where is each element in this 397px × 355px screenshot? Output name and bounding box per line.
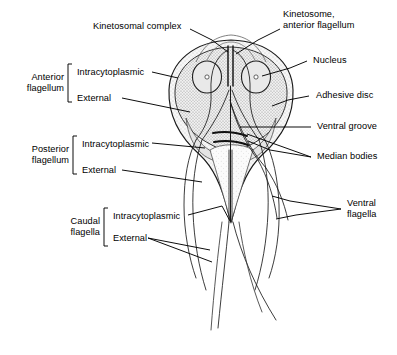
brace-posterior-flagellum: [73, 136, 77, 174]
tail-sheath-left: [211, 222, 222, 330]
brace-caudal-flagella: [104, 208, 108, 246]
giardia-diagram-figure: Kinetosomal complex Kinetosome, anterior…: [0, 0, 397, 355]
tail-sheath-right: [239, 222, 262, 312]
diagram-artwork: [0, 0, 397, 355]
group-name-posterior-flagellum-line1: Posterior: [0, 144, 69, 155]
leader-caudal-intracytoplasmic: [188, 206, 230, 221]
label-ventral-groove: Ventral groove: [317, 121, 377, 132]
group-name-posterior-flagellum-line2: flagellum: [0, 155, 69, 166]
group-name-caudal-flagella-line1: Caudal: [36, 216, 100, 227]
caudal-flagellum-right-external: [233, 222, 276, 320]
brace-anterior-flagellum: [68, 64, 72, 102]
anterior-flagellum-left-external: [184, 140, 196, 278]
label-median-bodies: Median bodies: [317, 151, 377, 162]
group-name-anterior-flagellum-line2: flagellum: [0, 83, 64, 94]
group-item-posterior-intracytoplasmic: Intracytoplasmic: [82, 139, 149, 150]
leader-caudal-external-a: [148, 238, 210, 250]
ventral-flagellum-right2-external: [266, 168, 288, 220]
caudal-axoneme-region: [210, 145, 253, 222]
group-item-anterior-external: External: [77, 93, 111, 104]
leader-caudal-external-b: [148, 238, 212, 262]
label-nucleus: Nucleus: [313, 55, 347, 66]
posterior-flagellum-left-external: [193, 140, 206, 290]
label-ventral-flagella-line2: flagella: [347, 209, 377, 220]
group-item-caudal-external: External: [113, 233, 147, 244]
label-ventral-flagella-line1: Ventral: [347, 198, 376, 209]
label-kinetosome-anterior-flagellum-line1: Kinetosome,: [283, 9, 335, 20]
anterior-flagellum-right-external: [265, 140, 279, 278]
group-item-caudal-intracytoplasmic: Intracytoplasmic: [113, 211, 180, 222]
label-adhesive-disc: Adhesive disc: [316, 90, 373, 101]
label-kinetosomal-complex: Kinetosomal complex: [93, 21, 181, 32]
nucleolus-left: [205, 75, 209, 79]
group-name-anterior-flagellum-line1: Anterior: [0, 72, 64, 83]
label-kinetosome-anterior-flagellum-line2: anterior flagellum: [283, 20, 354, 31]
leader-ventral-flagella-a: [272, 196, 341, 209]
nucleolus-right: [254, 75, 258, 79]
group-item-anterior-intracytoplasmic: Intracytoplasmic: [77, 67, 144, 78]
leader-posterior-external: [122, 170, 202, 182]
group-name-caudal-flagella-line2: flagella: [36, 227, 100, 238]
group-item-posterior-external: External: [82, 165, 116, 176]
